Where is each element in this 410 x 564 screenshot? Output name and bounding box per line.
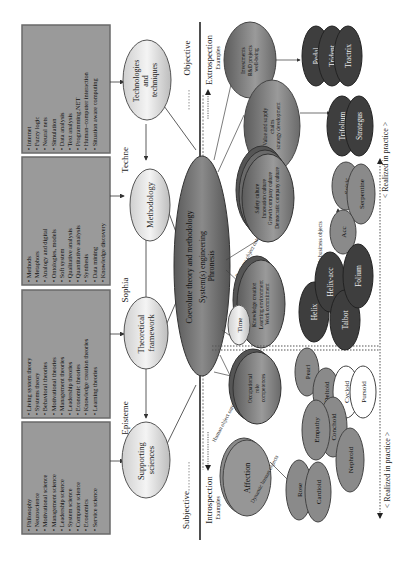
examples-bottom-label: Examples (215, 496, 221, 520)
svg-text:Pearl: Pearl (304, 365, 312, 379)
introspection-label: Introspection (204, 476, 214, 524)
strategus-node: Strategus (345, 96, 373, 156)
box-list-item: • Synthesis (82, 254, 89, 282)
folium-node: Folium (343, 244, 373, 308)
box-list-item: • Ontologies, models (50, 229, 57, 282)
technologies-node: Technologies and techniques (123, 40, 171, 120)
box-list-item: • Management theories (58, 356, 65, 415)
episteme-label: Episteme (120, 401, 130, 435)
svg-text:Serpentine: Serpentine (358, 179, 366, 209)
box-list-item: • Quantitative analysis (74, 225, 81, 282)
box-list-item: • Motivational science (41, 474, 48, 531)
pursoid-node: Pursoid (350, 366, 376, 418)
box-list-item: • Service science (91, 488, 98, 531)
examples-top-label: Examples (215, 46, 221, 70)
box-list-item: • Neural nets (41, 117, 48, 150)
box-list-item: • Data analysis (58, 112, 65, 150)
center-ellipse: Coevolute theory and methodology System(… (174, 156, 230, 376)
subjective-label: Subjective (181, 491, 191, 529)
svg-text:Time: Time (236, 318, 244, 333)
box-list-item: • Management science (50, 474, 57, 531)
box-list-item: • Programming.NET (74, 98, 81, 150)
box-list-item: • System science (66, 488, 73, 531)
svg-text:Conchoid: Conchoid (330, 413, 338, 441)
realized-bottom-label: < Realized in practice > (383, 431, 392, 508)
box-list-item: • Living system theory (25, 357, 32, 415)
theoretical-box: • Living system theory• Systems theory• … (22, 290, 110, 418)
svg-text:Talbot: Talbot (341, 310, 350, 330)
box-list-item: • Metaphors (33, 251, 40, 282)
box-list-item: • Behavioral theories (41, 362, 48, 415)
box-list-item: • Analogy and digital (41, 228, 48, 282)
svg-text:Folium: Folium (354, 265, 363, 287)
cardioid-node: Cardioid (305, 462, 331, 522)
svg-text:Investments R&D projects: Investments R&D projects well-being (240, 44, 259, 76)
svg-text:Pursoid: Pursoid (360, 381, 368, 403)
svg-text:Rose: Rose (296, 483, 304, 497)
box-list-item: • Fuzzy logic (33, 116, 40, 150)
supporting-box-visual: • Philosophy• Neuroscience• Motivational… (22, 422, 110, 534)
box-list-item: • Soft system (58, 249, 65, 282)
box-list-item: • Philosophy (25, 498, 32, 531)
extrospection-label: Extrospection (204, 35, 214, 85)
box-list-item: • Text analysis (66, 113, 73, 150)
box-list-item: • Knowledge creation theories (82, 338, 89, 415)
technologies-box: • Internet• Fuzzy logic• Neural nets• Si… (22, 25, 110, 153)
objective-label: Objective (182, 41, 192, 76)
svg-text:Helix-acc: Helix-acc (326, 267, 335, 297)
methodology-box: • Methods• Metaphors• Analogy and digita… (22, 157, 110, 285)
svg-text:Nephroid: Nephroid (347, 446, 355, 473)
box-list-item: • Simulation (50, 118, 57, 150)
box-list-item: • Knowledge discovery (99, 222, 106, 282)
svg-text:Empathy: Empathy (313, 417, 321, 443)
methodology-node: Methodology (130, 169, 170, 241)
box-list-item: • Economic theories (74, 364, 81, 415)
svg-text:Acc: Acc (340, 226, 348, 237)
theoretical-framework-node: Theoretical framework (124, 297, 168, 369)
box-list-item: • Qualitative analysis (66, 228, 73, 282)
svg-text:Supporting sciences: Supporting sciences (136, 440, 156, 480)
box-list-item: • Data mining (91, 246, 98, 282)
techne-label: Techne (120, 147, 130, 173)
svg-text:Theoretical framework: Theoretical framework (136, 313, 156, 354)
realized-top-label: < Realized in practice > (381, 121, 390, 198)
box-list-item: • Leadership theories (66, 361, 73, 415)
time-node: Time (228, 305, 250, 345)
nephroid-node: Nephroid (336, 428, 364, 492)
svg-text:Tractrix: Tractrix (344, 44, 353, 68)
box-list-item: • Systems theory (33, 372, 40, 415)
svg-text:Helix: Helix (310, 303, 319, 320)
svg-text:Methodology: Methodology (145, 181, 155, 228)
svg-text:Affection: Affection (243, 463, 252, 494)
empathy-node: Empathy (302, 400, 330, 460)
box-list-item: • Economics (82, 499, 89, 531)
box-list-item: • Leadership science (58, 479, 65, 531)
svg-text:Cycloid: Cycloid (343, 380, 351, 403)
svg-text:Strategus: Strategus (355, 112, 364, 140)
box-list-item: • Human–computer interaction (82, 71, 89, 150)
tractrix-node: Tractrix (334, 26, 362, 86)
box-list-item: • Computer science (74, 482, 81, 531)
sophia-label: Sophia (120, 277, 130, 302)
box-list-item: • Neuroscience (33, 493, 40, 531)
svg-text:Cardioid: Cardioid (315, 479, 323, 504)
box-list-item: • Motivational theories (50, 357, 57, 415)
box-list-item: • Internet (25, 126, 32, 150)
occupational-node: Occupational role competences (229, 349, 281, 424)
box-list-item: • Learning theories (91, 366, 98, 415)
box-list-item: • Situation aware computing (91, 78, 98, 150)
svg-text:Knowledge creation Learn: Knowledge creation Learning environment … (251, 279, 270, 329)
supporting-sciences-node: Supporting sciences (122, 422, 170, 498)
diagram-canvas: • Internet• Fuzzy logic• Neural nets• Si… (0, 0, 410, 564)
box-list-item: • Methods (25, 256, 32, 282)
